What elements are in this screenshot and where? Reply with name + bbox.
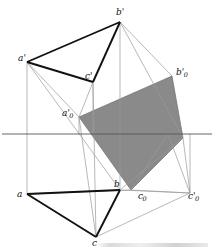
geometry-figure: a' b' c' b'0 a'0 a b c c0 c'0 — [0, 0, 214, 251]
label-a-zero-prime: a'0 — [62, 109, 74, 118]
label-c-prime: c' — [85, 72, 93, 81]
edge-aprime-bprime — [27, 22, 120, 62]
construction-line-gl-to-czeroprime — [168, 134, 190, 193]
edge-a-c — [27, 194, 96, 237]
label-c-zero-prime: c'0 — [188, 192, 200, 201]
label-a-prime: a' — [18, 54, 26, 63]
construction-line-cprime-to-c — [93, 82, 96, 237]
construction-line-rightnode-to-czeroprime — [183, 138, 190, 193]
edge-c-b — [96, 190, 120, 237]
caption-smudge — [96, 243, 208, 247]
projection-drawing-canvas — [0, 0, 214, 251]
label-b-zero-prime: b'0 — [176, 68, 188, 77]
frontal-projection-triangle — [27, 22, 120, 82]
label-c-zero: c0 — [138, 192, 147, 201]
label-a: a — [17, 190, 22, 199]
horizontal-projection-triangle — [27, 190, 120, 237]
construction-line-bprime-to-bzero — [120, 22, 172, 76]
label-b-prime: b' — [116, 8, 124, 17]
edge-a-b — [27, 190, 120, 194]
label-b: b — [114, 180, 120, 189]
